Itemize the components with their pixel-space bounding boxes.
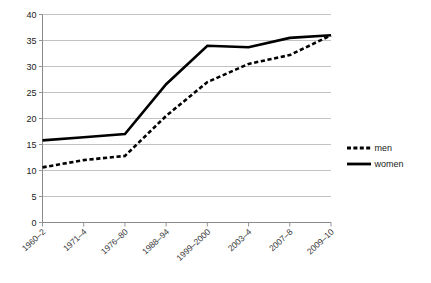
y-tick-label: 25 [26, 88, 36, 98]
x-tick-label: 2007–8 [267, 226, 295, 253]
x-tick-label: 1971–4 [61, 226, 89, 253]
x-tick-label: 1999–2000 [174, 226, 212, 263]
legend-label-women: women [374, 159, 404, 169]
legend-label-men: men [375, 143, 393, 153]
x-axis-tickmarks [43, 223, 332, 227]
chart-container: 0510152025303540 1960–21971–41976–801988… [0, 0, 431, 283]
chart-legend: menwomen [347, 143, 404, 169]
line-chart: 0510152025303540 1960–21971–41976–801988… [0, 0, 431, 283]
y-tick-label: 15 [26, 140, 36, 150]
series-line-men [43, 35, 332, 167]
series-line-women [43, 35, 332, 140]
y-tick-label: 35 [26, 36, 36, 46]
y-tick-label: 10 [26, 166, 36, 176]
gridlines [43, 15, 332, 223]
y-tick-label: 30 [26, 62, 36, 72]
y-axis-tickmarks [39, 15, 43, 223]
data-series [43, 35, 332, 167]
y-tick-label: 0 [31, 218, 36, 228]
y-axis-labels: 0510152025303540 [26, 10, 36, 228]
x-tick-label: 1988–94 [140, 226, 171, 256]
x-tick-label: 2009–10 [305, 226, 336, 256]
x-axis-labels: 1960–21971–41976–801988–941999–20002003–… [20, 226, 336, 263]
y-tick-label: 5 [31, 192, 36, 202]
x-tick-label: 1960–2 [20, 226, 48, 253]
x-tick-label: 1976–80 [99, 226, 130, 256]
y-tick-label: 40 [26, 10, 36, 20]
y-tick-label: 20 [26, 114, 36, 124]
x-tick-label: 2003–4 [226, 226, 254, 253]
